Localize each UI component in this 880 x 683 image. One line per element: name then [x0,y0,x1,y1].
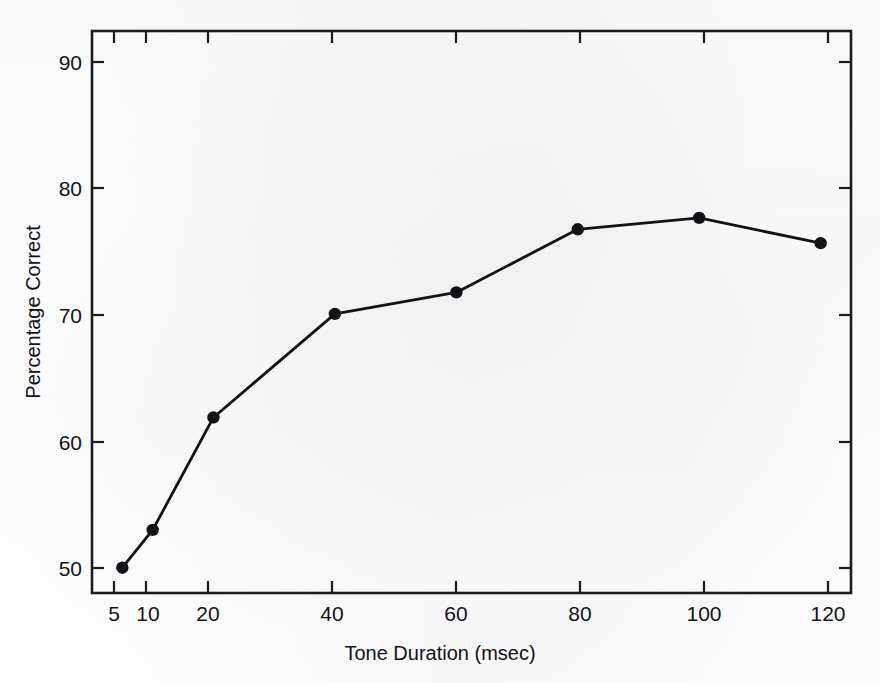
x-tick-label-60: 60 [444,602,467,625]
data-point [116,562,128,574]
y-axis-ticks [92,62,851,568]
y-tick-label-90: 90 [59,51,82,74]
axes-box [92,31,851,593]
y-tick-label-60: 60 [59,431,82,454]
plot-frame [92,31,851,593]
series-markers [116,212,827,574]
y-tick-label-80: 80 [59,177,82,200]
line-chart: 5 10 20 40 60 80 100 120 90 80 70 60 50 … [0,0,880,683]
y-tick-label-70: 70 [59,304,82,327]
x-tick-label-100: 100 [686,602,721,625]
x-tick-label-5: 5 [108,602,120,625]
x-tick-label-80: 80 [568,602,591,625]
data-point [329,308,341,320]
x-tick-label-40: 40 [320,602,343,625]
x-axis-ticks [114,31,828,593]
data-point [207,411,219,423]
data-point [572,223,584,235]
y-tick-labels: 90 80 70 60 50 [59,51,82,580]
data-point [814,237,826,249]
y-tick-label-50: 50 [59,557,82,580]
x-tick-label-10: 10 [136,602,159,625]
y-axis-title: Percentage Correct [22,225,44,399]
x-tick-label-120: 120 [810,602,845,625]
x-axis-title: Tone Duration (msec) [344,642,535,664]
series-line [122,218,820,568]
figure-canvas: 5 10 20 40 60 80 100 120 90 80 70 60 50 … [0,0,880,683]
data-point [693,212,705,224]
data-point [147,524,159,536]
data-point [450,286,462,298]
x-tick-label-20: 20 [196,602,219,625]
x-tick-labels: 5 10 20 40 60 80 100 120 [108,602,845,625]
data-series-percentage-correct [116,212,827,574]
